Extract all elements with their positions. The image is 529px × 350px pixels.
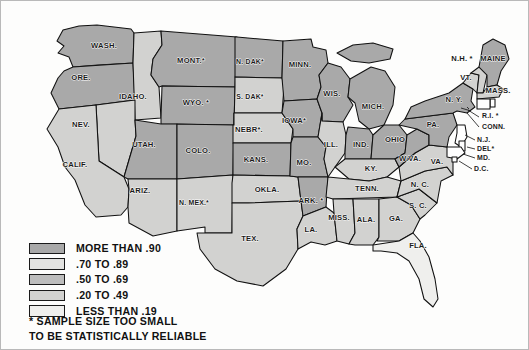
state-label-TN: TENN. [355, 184, 379, 193]
state-label-IL: ILL. [324, 140, 338, 149]
state-label-NV: NEV. [72, 120, 90, 129]
callout-label-RI: R.I. * [482, 112, 499, 119]
leader-md [463, 154, 475, 158]
state-label-WY: WYO. * [183, 98, 210, 107]
legend: MORE THAN .90.70 TO .89.50 TO .69.20 TO … [29, 242, 244, 320]
legend-row[interactable]: MORE THAN .90 [29, 242, 244, 255]
legend-row[interactable]: .70 TO .89 [29, 258, 244, 271]
state-label-CA: CALIF. [63, 160, 88, 169]
state-label-AZ: ARIZ. [130, 186, 151, 195]
state-label-OK: OKLA. [255, 185, 280, 194]
state-label-NY: N. Y. [446, 95, 463, 104]
legend-swatch-b2 [29, 258, 65, 270]
callout-label-DC: D.C. [474, 165, 489, 172]
state-label-MT: MONT.* [177, 56, 205, 65]
state-label-WV: W.VA. [399, 154, 421, 163]
state-RI[interactable] [490, 99, 495, 107]
leader-de [467, 147, 475, 149]
state-label-NC: N. C. [411, 180, 429, 189]
state-label-PA: PA. [427, 120, 440, 129]
legend-swatch-b1 [29, 243, 65, 255]
state-label-UT: UTAH. [132, 140, 156, 149]
callout-label-DE: DEL* [477, 145, 494, 152]
state-label-IN: IND. [353, 140, 369, 149]
state-label-MO: MO. [297, 158, 312, 167]
legend-swatch-b4 [29, 290, 65, 302]
state-label-MI: MICH. [362, 102, 385, 111]
legend-label: .50 TO .69 [76, 274, 128, 285]
footnote-line-2: TO BE STATISTICALLY RELIABLE [29, 329, 329, 344]
state-label-GA: GA. [389, 214, 403, 223]
state-label-ME: MAINE [480, 54, 505, 63]
state-label-SC: S. C. [409, 201, 427, 210]
leader-dc [459, 161, 472, 169]
state-label-VT: VT. [460, 73, 472, 82]
footnote: * SAMPLE SIZE TOO SMALL TO BE STATISTICA… [29, 314, 329, 344]
leader-ct [467, 113, 479, 127]
legend-label: MORE THAN .90 [76, 243, 161, 254]
state-label-IA: IOWA* [282, 116, 306, 125]
legend-row[interactable]: .50 TO .69 [29, 273, 244, 286]
legend-label: .70 TO .89 [76, 259, 128, 270]
legend-row[interactable]: .20 TO .49 [29, 289, 244, 302]
state-label-OH: OHIO [385, 135, 405, 144]
callout-labels-layer: R.I. *CONN.N.J.DEL*MD.D.C. [474, 112, 505, 172]
state-label-ID: IDAHO. [119, 92, 147, 101]
state-label-ND: N. DAK* [236, 58, 264, 65]
state-label-SD: S. DAK* [236, 93, 264, 100]
state-label-AR: ARK. * [299, 196, 324, 205]
state-label-NE: NEBR*. [235, 125, 263, 134]
state-label-NH: N.H. * [451, 54, 472, 63]
state-label-NM: N. MEX.* [179, 199, 209, 206]
state-label-MS: MISS. [328, 213, 350, 222]
state-label-WI: WIS. [323, 89, 340, 98]
state-label-FL: FLA. [409, 241, 427, 250]
state-label-CO: COLO. [185, 146, 210, 155]
state-FL[interactable] [373, 233, 438, 307]
state-label-WA: WASH. [91, 41, 117, 50]
state-label-MN: MINN. [289, 60, 312, 69]
map-figure: WASH.ORE.IDAHO.MONT.*WYO. *N. DAK*S. DAK… [0, 0, 529, 350]
footnote-line-1: * SAMPLE SIZE TOO SMALL [29, 314, 329, 329]
state-label-AL: ALA. [357, 215, 376, 224]
state-label-LA: LA. [305, 225, 318, 234]
state-DC[interactable] [452, 157, 457, 162]
callout-label-MD: MD. [477, 154, 490, 161]
callout-label-NJ: N.J. [477, 136, 490, 143]
legend-swatch-b3 [29, 274, 65, 286]
state-CT[interactable] [477, 99, 490, 109]
state-label-KY: KY. [365, 164, 377, 173]
state-label-KS: KANS. [244, 155, 269, 164]
state-label-VA: VA. [431, 157, 444, 166]
state-label-OR: ORE. [71, 73, 90, 82]
state-NY[interactable] [405, 83, 475, 119]
callout-label-CT: CONN. [482, 123, 505, 130]
legend-label: .20 TO .49 [76, 290, 128, 301]
state-label-MA: MASS. [485, 86, 510, 95]
